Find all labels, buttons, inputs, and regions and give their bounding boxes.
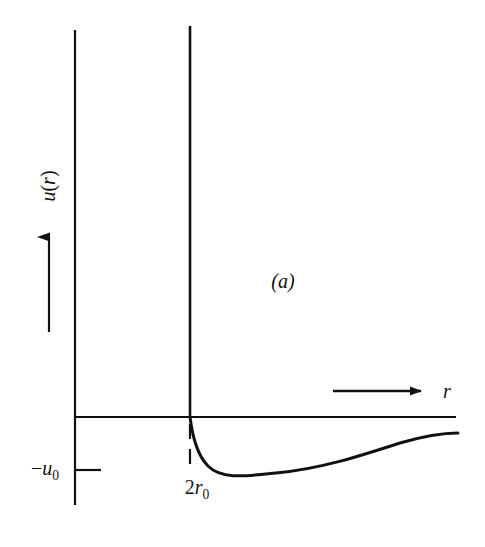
potential-plot — [0, 0, 485, 547]
figure-panel-a: u(r) r (a) −u0 2r0 — [0, 0, 485, 547]
y-axis-label: u(r) — [38, 170, 58, 201]
y-tick-subscript: 0 — [52, 468, 59, 483]
y-axis-label-open-paren: ( — [37, 185, 59, 192]
y-axis-label-variable: u — [37, 192, 59, 202]
y-axis-label-close-paren: ) — [37, 170, 59, 177]
minus-sign: − — [31, 457, 42, 479]
y-axis-tick-label: −u0 — [31, 458, 59, 482]
x-axis-label: r — [443, 381, 451, 401]
y-axis-label-argument: r — [37, 177, 59, 185]
y-tick-variable: u — [42, 457, 52, 479]
x-axis-tick-label: 2r0 — [185, 477, 210, 501]
panel-letter-label: (a) — [271, 271, 294, 291]
x-tick-subscript: 0 — [203, 487, 210, 502]
potential-curve — [190, 417, 458, 476]
x-tick-variable: r — [195, 476, 203, 498]
x-tick-prefix: 2 — [185, 476, 195, 498]
